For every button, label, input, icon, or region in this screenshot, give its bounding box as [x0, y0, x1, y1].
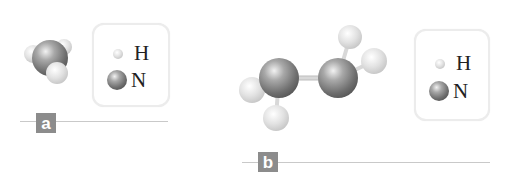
- hydrogen-atom: [46, 62, 68, 84]
- hydrogen-swatch-icon: [112, 48, 124, 60]
- legend-label-n: N: [131, 70, 146, 91]
- legend-label-h: H: [134, 43, 149, 64]
- legend-row-h: H: [112, 43, 149, 64]
- legend-a: H N: [92, 23, 170, 107]
- panel-b-rule: [242, 162, 490, 163]
- hydrogen-swatch-icon: [434, 58, 446, 70]
- legend-b: H N: [414, 29, 490, 121]
- legend-label-h: H: [456, 53, 471, 74]
- hydrazine-molecule: [238, 15, 413, 135]
- legend-row-h: H: [434, 53, 471, 74]
- legend-label-n: N: [453, 81, 468, 102]
- hydrogen-atom: [338, 25, 362, 49]
- legend-row-n: N: [106, 69, 146, 91]
- hydrogen-atom: [263, 105, 289, 131]
- legend-row-n: N: [428, 80, 468, 102]
- panel-b-tag: b: [258, 152, 278, 172]
- ammonia-molecule: [20, 28, 80, 90]
- panel-a-tag: a: [36, 113, 56, 133]
- nitrogen-swatch-icon: [106, 69, 128, 91]
- nitrogen-atom: [318, 58, 358, 98]
- hydrogen-atom: [361, 48, 387, 74]
- nitrogen-swatch-icon: [428, 80, 450, 102]
- nitrogen-atom: [259, 58, 299, 98]
